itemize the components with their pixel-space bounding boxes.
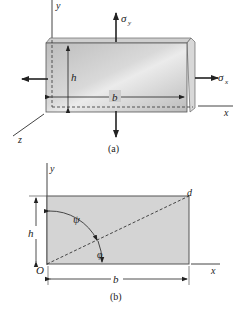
z-axis-a — [13, 114, 44, 136]
y-axis-label-a: y — [55, 0, 61, 11]
stress-diagram: y h b σ y σ x x z ( — [0, 0, 233, 309]
origin-label: O — [36, 264, 44, 276]
width-label-b: b — [113, 273, 119, 285]
width-label-a: b — [112, 91, 118, 103]
plate-top-face — [46, 38, 191, 43]
caption-a: (a) — [108, 143, 119, 155]
height-label-b: h — [28, 227, 34, 239]
psi-label: ψ — [73, 213, 80, 225]
height-label-a: h — [71, 71, 77, 83]
sigma-y-subscript: y — [127, 19, 132, 27]
figure-a: y h b σ y σ x x z ( — [13, 0, 233, 155]
corner-label-d: d — [187, 187, 193, 198]
y-axis-label-b: y — [49, 163, 55, 174]
x-axis-label-a: x — [223, 107, 229, 118]
sigma-x-label: σ — [218, 71, 224, 83]
sigma-x-subscript: x — [224, 78, 229, 86]
caption-b: (b) — [110, 291, 122, 303]
phi-label: φ — [97, 249, 103, 260]
plate-right-face — [187, 38, 195, 112]
sigma-y-label: σ — [121, 12, 127, 24]
x-axis-label-b: x — [210, 265, 216, 276]
z-axis-label-a: z — [17, 134, 22, 145]
cross-section-rect — [47, 196, 189, 264]
figure-b: y h x d ψ φ O b (b) — [27, 163, 220, 303]
